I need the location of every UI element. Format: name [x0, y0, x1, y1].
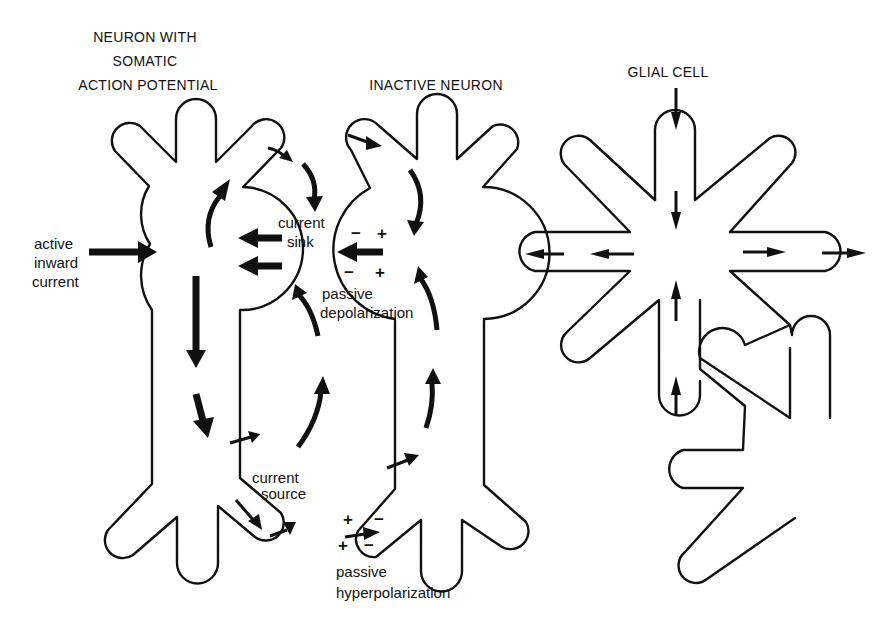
- title-line-1: NEURON WITH: [93, 29, 197, 45]
- extracellular-downward-curved-arrow: [303, 164, 323, 212]
- label-passive-depolarization: passive depolarization: [320, 285, 413, 321]
- svg-text:current: current: [278, 214, 326, 231]
- svg-text:inward: inward: [34, 254, 78, 271]
- svg-text:−: −: [351, 224, 361, 243]
- glial-cell-link: [699, 300, 790, 358]
- svg-text:−: −: [364, 536, 374, 555]
- svg-text:current: current: [252, 469, 300, 486]
- glial-center-up-arrow: [671, 280, 681, 321]
- inactive-downward-curved-arrow: [407, 170, 424, 236]
- title-line-2: SOMATIC: [113, 53, 178, 69]
- glial-right-outer-arrow: [822, 248, 866, 258]
- axial-downward-arrow-lower: [193, 394, 214, 438]
- svg-text:+: +: [343, 510, 353, 529]
- svg-text:hyperpolarization: hyperpolarization: [336, 584, 450, 601]
- label-passive-hyperpolarization: passive hyperpolarization: [336, 563, 450, 601]
- svg-text:sink: sink: [287, 233, 314, 250]
- glial-center-down-arrow: [671, 191, 681, 230]
- glial-cell-outline: [655, 110, 841, 418]
- axial-downward-arrow: [186, 276, 206, 368]
- panel-title-glial-cell: GLIAL CELL: [627, 64, 708, 80]
- svg-text:current: current: [32, 273, 80, 290]
- label-active-inward-current: active inward current: [32, 235, 80, 290]
- svg-text:source: source: [261, 485, 306, 502]
- svg-text:+: +: [377, 224, 387, 243]
- svg-text:active: active: [34, 235, 73, 252]
- passive-depolarization-outflow-arrow: [337, 242, 383, 262]
- glial-left-outer-arrow: [525, 249, 564, 259]
- current-sink-arrow-upper: [238, 228, 282, 248]
- active-neuron-outline: [105, 99, 303, 584]
- glial-right-inner-arrow: [743, 247, 786, 257]
- active-inward-current-arrow: [89, 241, 157, 263]
- glial-left-inner-arrow: [590, 249, 634, 259]
- svg-text:passive: passive: [336, 563, 387, 580]
- svg-text:+: +: [375, 263, 385, 282]
- inactive-neuron-outline: [333, 94, 549, 591]
- svg-text:+: +: [338, 536, 348, 555]
- glial-bottom-inflow-arrow: [671, 376, 681, 416]
- svg-text:−: −: [344, 263, 354, 282]
- svg-text:passive: passive: [322, 285, 373, 302]
- svg-text:depolarization: depolarization: [320, 304, 413, 321]
- panel-title-active-neuron: NEURON WITH SOMATIC ACTION POTENTIAL: [78, 29, 217, 93]
- outflow-arrow-lower-shaft: [230, 431, 260, 443]
- label-current-source: current source: [252, 469, 306, 502]
- title-line-3: ACTION POTENTIAL: [78, 77, 217, 93]
- extracellular-return-arrow-upper: [292, 284, 318, 336]
- soma-upward-curved-arrow: [208, 179, 230, 247]
- svg-text:−: −: [374, 510, 384, 529]
- inactive-shaft-crossing-arrow: [387, 453, 419, 468]
- inactive-return-arrow-upper: [414, 266, 437, 330]
- inactive-return-arrow-lower: [425, 368, 441, 428]
- extracellular-return-arrow-lower: [298, 376, 330, 447]
- glial-cell-lower-outline: [669, 348, 795, 583]
- panel-title-inactive-neuron: INACTIVE NEURON: [369, 77, 503, 93]
- neuron-glia-current-diagram: NEURON WITH SOMATIC ACTION POTENTIAL INA…: [0, 0, 895, 626]
- inactive-dendrite-inflow-arrow: [348, 135, 382, 150]
- current-sink-arrow-lower: [238, 256, 282, 276]
